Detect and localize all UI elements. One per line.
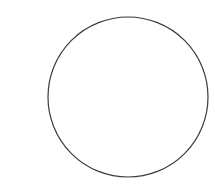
diagram-canvas	[0, 0, 215, 186]
background	[0, 0, 215, 186]
